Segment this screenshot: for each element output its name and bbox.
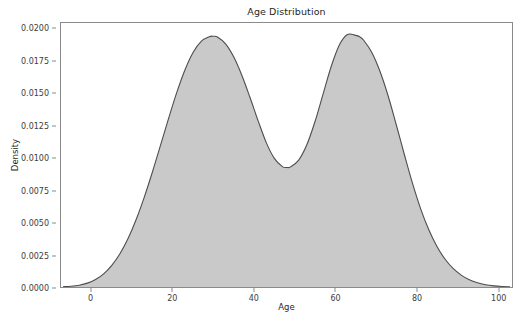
y-tick-label: 0.0175 <box>21 56 49 65</box>
y-tick-label: 0.0050 <box>21 219 49 228</box>
x-tick-mark <box>172 288 173 292</box>
y-tick-mark <box>52 158 56 159</box>
y-tick-label: 0.0200 <box>21 24 49 33</box>
x-tick-mark <box>498 288 499 292</box>
x-tick-mark <box>90 288 91 292</box>
y-tick-mark <box>52 255 56 256</box>
y-tick-label: 0.0075 <box>21 186 49 195</box>
x-tick-mark <box>253 288 254 292</box>
y-tick-mark <box>52 190 56 191</box>
y-tick-label: 0.0100 <box>21 154 49 163</box>
chart-title: Age Distribution <box>60 6 513 17</box>
y-tick-mark <box>52 28 56 29</box>
y-axis-tick-labels: 0.00000.00250.00500.00750.01000.01250.01… <box>0 22 56 288</box>
y-tick-label: 0.0150 <box>21 89 49 98</box>
y-tick-label: 0.0025 <box>21 251 49 260</box>
y-tick-label: 0.0125 <box>21 121 49 130</box>
y-tick-mark <box>52 223 56 224</box>
density-area-fill <box>63 34 510 287</box>
matplotlib-figure: Age Distribution Density 0.00000.00250.0… <box>0 0 522 321</box>
y-tick-label: 0.0000 <box>21 284 49 293</box>
x-tick-mark <box>335 288 336 292</box>
plot-area <box>60 22 513 288</box>
y-tick-mark <box>52 125 56 126</box>
density-curve-svg <box>61 23 512 287</box>
y-tick-mark <box>52 288 56 289</box>
x-tick-mark <box>417 288 418 292</box>
y-tick-mark <box>52 60 56 61</box>
x-axis-label: Age <box>60 302 513 312</box>
y-tick-mark <box>52 93 56 94</box>
